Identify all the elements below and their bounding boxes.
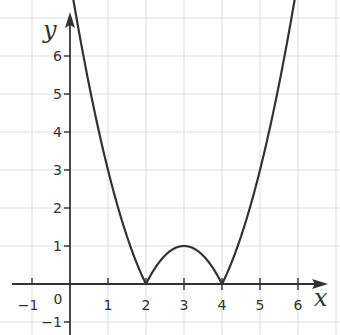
x-tick-label: 3 xyxy=(180,297,189,313)
y-tick-label: 5 xyxy=(53,86,62,102)
y-tick-label: 1 xyxy=(53,238,62,254)
x-tick-label: 2 xyxy=(142,297,151,313)
x-tick-label: −1 xyxy=(18,297,39,313)
origin-label: 0 xyxy=(54,291,63,307)
x-axis-label: x xyxy=(314,284,328,312)
y-tick-label: −1 xyxy=(41,314,62,330)
x-tick-label: 6 xyxy=(294,297,303,313)
ticks xyxy=(32,56,298,322)
y-tick-label: 6 xyxy=(53,48,62,64)
x-tick-label: 5 xyxy=(256,297,265,313)
y-tick-labels: 6 5 4 3 2 1 −1 xyxy=(41,48,62,330)
y-axis-label: y xyxy=(42,16,57,44)
y-tick-label: 4 xyxy=(53,124,62,140)
y-tick-label: 3 xyxy=(53,162,62,178)
y-tick-label: 2 xyxy=(53,200,62,216)
x-tick-label: 4 xyxy=(218,297,227,313)
axes xyxy=(12,22,318,335)
x-tick-label: 1 xyxy=(104,297,113,313)
function-graph: −1 1 2 3 4 5 6 0 6 5 4 3 2 1 −1 y x xyxy=(0,0,340,335)
